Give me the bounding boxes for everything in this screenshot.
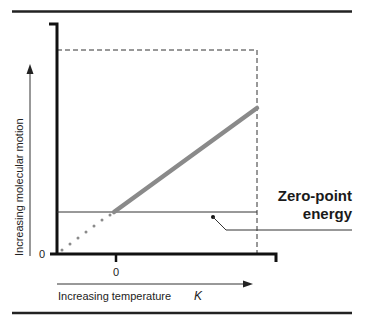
- y-axis: [49, 24, 57, 254]
- x-zero-label: 0: [113, 266, 119, 278]
- zero-point-energy-line1: Zero-point: [278, 187, 352, 205]
- dashed-bounding-box: [57, 50, 257, 254]
- x-axis-title: Increasing temperature: [58, 290, 171, 302]
- y-origin-label: 0: [39, 248, 45, 260]
- x-axis: [50, 254, 276, 262]
- y-arrow-head-icon: [27, 64, 34, 74]
- zero-point-energy-label: Zero-point energy: [278, 187, 352, 223]
- diagram-canvas: [0, 0, 365, 319]
- x-arrow-head-icon: [243, 281, 253, 288]
- x-axis-unit: K: [194, 289, 202, 303]
- molecular-motion-line: [114, 108, 257, 212]
- y-axis-title: Increasing molecular motion: [13, 118, 25, 256]
- dotted-extrapolation: [61, 214, 112, 252]
- zero-point-energy-line2: energy: [278, 205, 352, 223]
